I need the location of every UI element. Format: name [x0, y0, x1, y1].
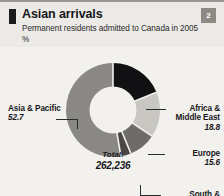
donut-chart: Total: 262,236 Asia & Pacific 52.7 Unite…: [0, 47, 224, 196]
figure-number-badge: 2: [201, 8, 216, 23]
callout-africa-middle-east-label-2: Middle East: [176, 113, 220, 122]
callout-asia-pacific: Asia & Pacific 52.7: [8, 104, 61, 123]
page-title: Asian arrivals: [22, 7, 103, 21]
title-bullet-mark: [9, 9, 16, 24]
unit-label: %: [22, 35, 29, 44]
card-header: Asian arrivals Permanent residents admit…: [0, 0, 224, 47]
callout-africa-middle-east-value: 18.8: [176, 123, 220, 132]
leader-line-samerica-v: [140, 185, 141, 196]
infographic-card: Asian arrivals Permanent residents admit…: [0, 0, 224, 196]
callout-europe: Europe 15.6: [192, 149, 220, 168]
page-subtitle: Permanent residents admitted to Canada i…: [22, 24, 198, 33]
donut-chart-svg: [62, 47, 164, 173]
leader-line-samerica: [140, 195, 161, 196]
callout-south-central-america: South & Central America 9.4: [159, 190, 220, 196]
callout-asia-pacific-value: 52.7: [8, 113, 61, 122]
header-top-rule: [0, 0, 224, 2]
callout-europe-label: Europe: [192, 149, 220, 158]
donut-hole: [90, 87, 137, 134]
callout-africa-middle-east: Africa & Middle East 18.8: [176, 104, 220, 132]
callout-asia-pacific-label: Asia & Pacific: [8, 104, 61, 113]
callout-europe-value: 15.6: [192, 158, 220, 167]
callout-south-central-america-label-1: South &: [159, 190, 220, 196]
callout-africa-middle-east-label-1: Africa &: [176, 104, 220, 113]
